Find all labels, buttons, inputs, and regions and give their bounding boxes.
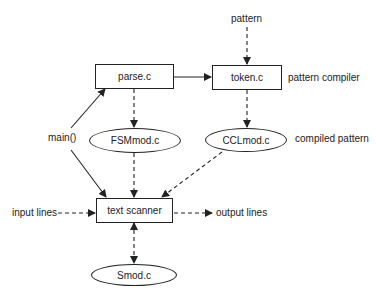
node-smod-label: Smod.c [117, 270, 151, 281]
node-fsmmod-label: FSMmod.c [111, 135, 159, 146]
label-pattern-compiler: pattern compiler [288, 72, 360, 83]
edge-main-parse [71, 89, 105, 128]
edges-layer [0, 0, 376, 293]
node-text-scanner: text scanner [96, 198, 173, 223]
node-text-scanner-label: text scanner [107, 205, 161, 216]
label-pattern: pattern [231, 13, 262, 24]
node-smod: Smod.c [91, 264, 177, 286]
node-fsmmod: FSMmod.c [89, 128, 181, 153]
node-parse-label: parse.c [118, 71, 151, 82]
label-output-lines: output lines [216, 207, 267, 218]
node-cclmod: CCLmod.c [205, 128, 287, 152]
node-cclmod-label: CCLmod.c [222, 135, 269, 146]
node-token-label: token.c [231, 72, 263, 83]
edge-main-scanner [71, 150, 106, 197]
label-compiled-pattern: compiled pattern [295, 133, 369, 144]
label-input-lines: input lines [12, 207, 57, 218]
node-parse: parse.c [95, 64, 174, 89]
node-token: token.c [212, 65, 282, 90]
label-main: main() [48, 132, 76, 143]
edge-ccl-scanner [162, 152, 222, 197]
